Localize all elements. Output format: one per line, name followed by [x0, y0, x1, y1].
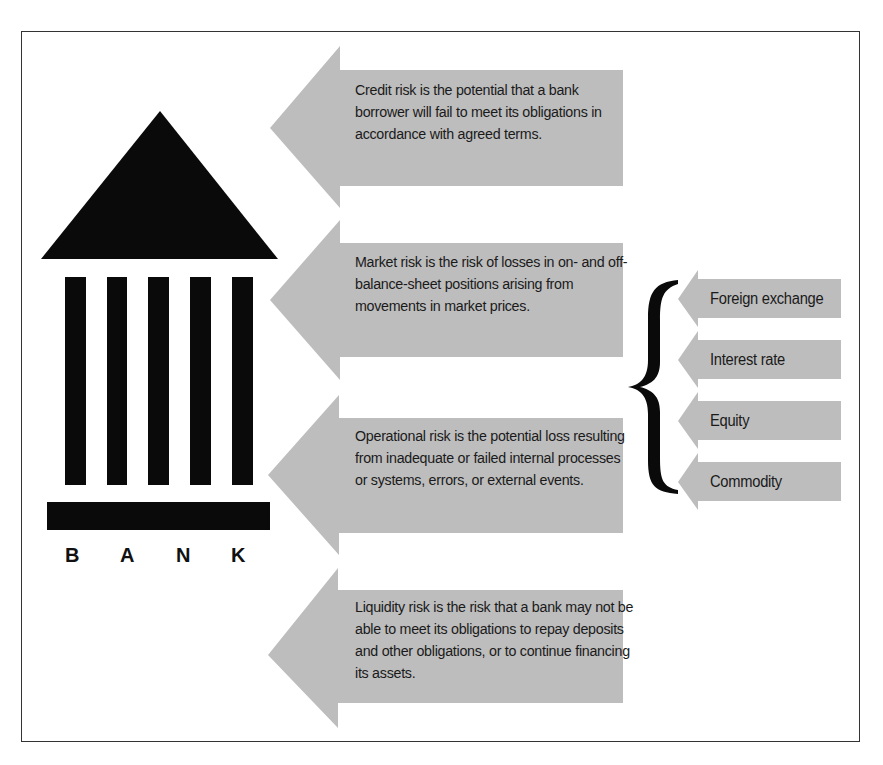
equity-arrow — [678, 392, 841, 449]
commodity-label: Commodity — [710, 471, 782, 493]
bank-base — [47, 502, 270, 530]
equity-label: Equity — [710, 410, 749, 432]
bank-column — [232, 277, 253, 485]
bank-label-letter: A — [120, 544, 134, 567]
liquidity-risk-text: Liquidity risk is the risk that a bank m… — [355, 596, 640, 684]
bank-label-letter: B — [65, 544, 79, 567]
bank-label-letter: N — [176, 544, 190, 567]
bank-icon — [41, 111, 278, 530]
credit-risk-text: Credit risk is the potential that a bank… — [355, 79, 631, 145]
operational-risk-text: Operational risk is the potential loss r… — [355, 425, 631, 491]
market-risk-text: Market risk is the risk of losses in on-… — [355, 251, 631, 317]
bank-roof — [41, 111, 278, 259]
interest-rate-label: Interest rate — [710, 349, 785, 371]
bank-column — [190, 277, 211, 485]
bank-label-letter: K — [231, 544, 245, 567]
bank-column — [65, 277, 86, 485]
bank-column — [148, 277, 169, 485]
curly-brace-icon — [628, 280, 678, 494]
foreign-exchange-label: Foreign exchange — [710, 288, 823, 310]
bank-column — [107, 277, 127, 485]
